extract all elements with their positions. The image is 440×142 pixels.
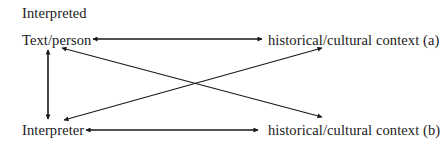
diagram-arrows — [0, 0, 439, 142]
